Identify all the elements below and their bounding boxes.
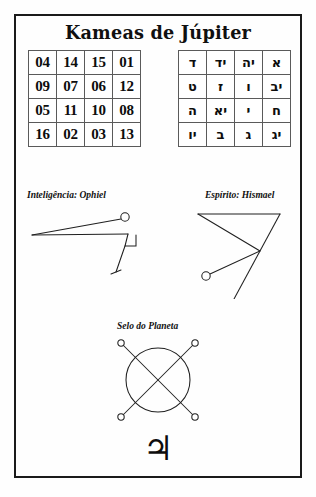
page-canvas: Kameas de Júpiter 04 14 15 01 09 07 06 1…	[0, 0, 316, 497]
table-row: ה יא י ח	[179, 99, 291, 123]
kamea-hebrew-cell: ח	[263, 99, 291, 123]
kamea-numbers-table: 04 14 15 01 09 07 06 12 05 11 10 08 16 0…	[28, 50, 141, 147]
hismael-stroke-chevron	[198, 214, 260, 274]
ophiel-stroke-descender	[116, 246, 125, 272]
kamea-cell: 12	[113, 75, 141, 99]
table-row: יו ב ג יג	[179, 123, 291, 147]
kamea-cell: 16	[29, 123, 57, 147]
table-row: 05 11 10 08	[29, 99, 141, 123]
spirit-label: Espírito: Hismael	[205, 190, 274, 200]
page-title: Kameas de Júpiter	[24, 21, 292, 43]
kamea-hebrew-cell: ג	[235, 123, 263, 147]
kamea-cell: 05	[29, 99, 57, 123]
kamea-cell: 07	[57, 75, 85, 99]
kamea-cell: 01	[113, 51, 141, 75]
kamea-cell: 11	[57, 99, 85, 123]
seal-node-top-left	[118, 340, 124, 346]
kamea-hebrew-cell: ט	[179, 75, 207, 99]
kamea-hebrew-table: ד יד יה א ט ז ו יב ה יא י ח יו ב ג יג	[178, 50, 291, 147]
kamea-hebrew-cell: ה	[179, 99, 207, 123]
ophiel-stroke-zigzag	[125, 234, 136, 246]
kamea-hebrew-cell: יו	[179, 123, 207, 147]
ophiel-stroke-upper	[32, 219, 121, 235]
kamea-hebrew-cell: ז	[207, 75, 235, 99]
seal-node-top-right	[192, 340, 198, 346]
ophiel-start-node	[121, 213, 129, 221]
hismael-sigil-drawing	[190, 204, 300, 299]
hismael-stroke-diagonal	[234, 214, 280, 299]
kamea-hebrew-cell: א	[263, 51, 291, 75]
kamea-cell: 13	[113, 123, 141, 147]
kamea-hebrew-cell: ד	[179, 51, 207, 75]
kamea-cell: 10	[85, 99, 113, 123]
intelligence-label: Inteligência: Ophiel	[27, 190, 106, 200]
kamea-hebrew-cell: יא	[207, 99, 235, 123]
kamea-cell: 02	[57, 123, 85, 147]
kamea-hebrew-cell: ו	[235, 75, 263, 99]
kamea-hebrew-cell: יה	[235, 51, 263, 75]
kamea-cell: 08	[113, 99, 141, 123]
kamea-cell: 03	[85, 123, 113, 147]
table-row: 16 02 03 13	[29, 123, 141, 147]
table-row: 09 07 06 12	[29, 75, 141, 99]
kamea-hebrew-cell: י	[235, 99, 263, 123]
seal-node-bottom-left	[118, 414, 124, 420]
kamea-cell: 06	[85, 75, 113, 99]
jupiter-symbol: ♃	[14, 432, 302, 466]
ophiel-sigil-drawing	[24, 204, 144, 289]
kamea-cell: 15	[85, 51, 113, 75]
seal-node-bottom-right	[192, 414, 198, 420]
kamea-hebrew-cell: ב	[207, 123, 235, 147]
table-row: ט ז ו יב	[179, 75, 291, 99]
hismael-end-node	[202, 272, 210, 280]
table-row: 04 14 15 01	[29, 51, 141, 75]
kamea-hebrew-cell: יד	[207, 51, 235, 75]
ophiel-stroke-lower	[32, 234, 128, 235]
kamea-cell: 09	[29, 75, 57, 99]
kamea-cell: 04	[29, 51, 57, 75]
kamea-hebrew-cell: יג	[263, 123, 291, 147]
table-row: ד יד יה א	[179, 51, 291, 75]
kamea-hebrew-cell: יב	[263, 75, 291, 99]
planet-seal-drawing	[112, 336, 204, 424]
seal-label: Selo do Planeta	[117, 321, 178, 331]
kamea-cell: 14	[57, 51, 85, 75]
